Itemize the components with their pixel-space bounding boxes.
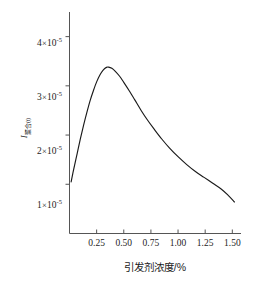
y-tick-label-4: 4×10-5 <box>0 38 62 48</box>
x-tick-label-5: 1.50 <box>224 238 241 248</box>
x-tick-label-4: 1.25 <box>197 238 214 248</box>
x-tick-label-2: 0.75 <box>143 238 160 248</box>
x-tick-label-3: 1.00 <box>170 238 187 248</box>
x-tick-label-1: 0.50 <box>115 238 132 248</box>
chart-figure: 1×10-5 2×10-5 3×10-5 4×10-5 0.25 0.50 0.… <box>0 0 262 283</box>
x-axis-title: 引发剂浓度/% <box>124 259 186 274</box>
y-tick-label-1: 1×10-5 <box>0 200 62 210</box>
y-tick-label-3: 3×10-5 <box>0 92 62 102</box>
y-tick-label-2: 2×10-5 <box>0 146 62 156</box>
y-axis-title: I聚合(t) <box>19 118 29 139</box>
x-tick-label-0: 0.25 <box>88 238 105 248</box>
y-axis-title-symbol: I <box>19 135 29 138</box>
x-axis-ticks <box>97 230 233 234</box>
data-series-curve <box>71 67 234 202</box>
y-axis-title-subscript: 聚合(t) <box>25 118 31 136</box>
y-axis-ticks <box>66 37 70 185</box>
axes-group <box>70 12 242 234</box>
